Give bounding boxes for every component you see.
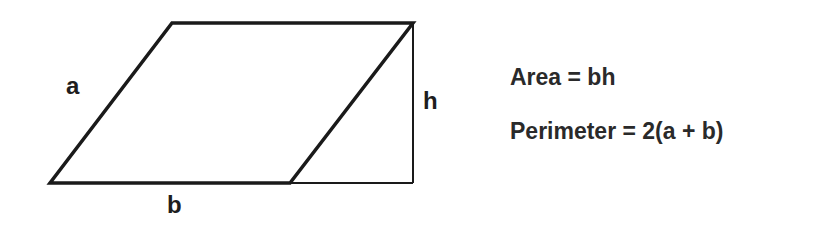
parallelogram-shape bbox=[50, 23, 413, 183]
height-label-h: h bbox=[423, 89, 438, 113]
base-label-b: b bbox=[167, 193, 182, 217]
side-label-a: a bbox=[66, 74, 79, 98]
perimeter-formula: Perimeter = 2(a + b) bbox=[510, 120, 724, 143]
area-formula: Area = bh bbox=[510, 66, 615, 89]
parallelogram-diagram bbox=[0, 0, 820, 231]
